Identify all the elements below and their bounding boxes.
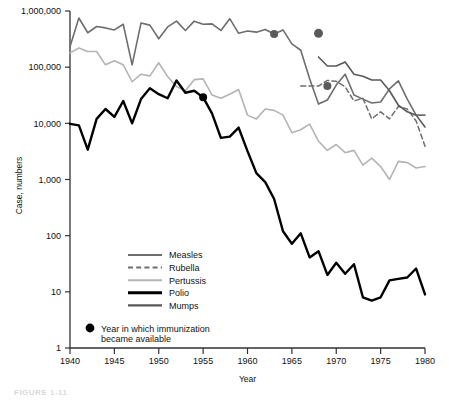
x-axis-title: Year	[239, 374, 256, 384]
axis-frame	[70, 11, 425, 348]
x-tick-label: 1955	[193, 356, 213, 366]
y-tick-label: 10,000	[33, 119, 61, 129]
x-tick-label: 1945	[104, 356, 124, 366]
chart-axes	[70, 11, 425, 348]
x-tick-label: 1950	[149, 356, 169, 366]
legend-marker-dot	[86, 324, 95, 333]
x-tick-label: 1970	[326, 356, 346, 366]
legend-marker-note-line2: became available	[101, 334, 171, 344]
legend-label-polio: Polio	[169, 288, 189, 298]
y-tick-label: 10	[51, 287, 61, 297]
x-tick-label: 1965	[282, 356, 302, 366]
x-tick-label: 1980	[415, 356, 435, 366]
y-tick-label: 1	[56, 343, 61, 353]
series-line-mumps	[319, 57, 426, 127]
y-tick-label: 100	[46, 231, 61, 241]
series-lines	[70, 18, 425, 301]
y-axis-ticks: 1,000,000100,00010,0001,000100101	[21, 6, 70, 353]
x-tick-label: 1940	[60, 356, 80, 366]
x-tick-label: 1960	[237, 356, 257, 366]
x-axis-ticks: 194019451950195519601965197019751980	[60, 348, 435, 366]
legend-marker-note-line1: Year in which immunization	[101, 324, 210, 334]
immunization-marker-measles	[270, 30, 278, 38]
figure-caption: FIGURE 1-11	[14, 388, 68, 397]
legend-label-measles: Measles	[169, 250, 203, 260]
y-axis-title: Case, numbers	[14, 157, 24, 215]
immunization-marker-rubella	[323, 82, 331, 90]
chart-legend: MeaslesRubellaPertussisPolioMumpsYear in…	[86, 250, 210, 343]
y-tick-label: 1,000,000	[21, 6, 61, 16]
incidence-line-chart: 1,000,000100,00010,0001,000100101 194019…	[0, 0, 449, 402]
immunization-markers	[199, 29, 331, 102]
figure-container: 1,000,000100,00010,0001,000100101 194019…	[0, 0, 449, 402]
legend-label-pertussis: Pertussis	[169, 276, 207, 286]
y-tick-label: 100,000	[28, 62, 61, 72]
immunization-marker-polio	[199, 93, 207, 101]
x-tick-label: 1975	[371, 356, 391, 366]
y-tick-label: 1,000	[38, 175, 61, 185]
legend-label-rubella: Rubella	[169, 263, 200, 273]
series-line-rubella	[301, 80, 425, 146]
series-line-pertussis	[70, 48, 425, 180]
axis-titles: YearCase, numbers	[14, 157, 256, 384]
legend-label-mumps: Mumps	[169, 301, 199, 311]
immunization-marker-mumps	[314, 29, 323, 38]
